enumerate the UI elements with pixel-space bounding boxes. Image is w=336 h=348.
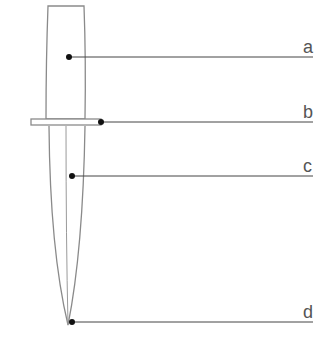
- callout-b: b: [98, 102, 313, 125]
- dagger-handle: [46, 6, 85, 119]
- pointer-dot-d: [69, 319, 75, 325]
- pointer-dot-c: [69, 173, 75, 179]
- label-d: d: [303, 302, 313, 322]
- label-c: c: [303, 156, 312, 176]
- label-a: a: [303, 37, 314, 57]
- dagger-guard: [31, 119, 101, 125]
- callout-c: c: [69, 156, 313, 179]
- callout-a: a: [66, 37, 314, 60]
- pointer-dot-b: [98, 119, 104, 125]
- label-b: b: [303, 102, 313, 122]
- callout-d: d: [69, 302, 313, 325]
- pointer-dot-a: [66, 54, 72, 60]
- dagger-diagram: a b c d: [0, 0, 336, 348]
